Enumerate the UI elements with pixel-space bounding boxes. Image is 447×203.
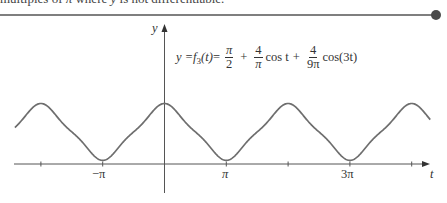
frac2-num: 4 — [254, 44, 262, 58]
y-axis-arrow-icon — [162, 24, 168, 32]
plus-2: + — [293, 50, 300, 65]
x-axis-arrow-icon — [422, 161, 430, 167]
term-cos-t: cos t — [266, 50, 289, 65]
tick-label-3pi: 3π — [341, 167, 354, 182]
frac2-den: π — [255, 58, 261, 71]
tick-label-pi: π — [222, 167, 228, 182]
fraction-4-over-9pi: 49π — [307, 44, 320, 71]
frac1-num: π — [225, 44, 233, 58]
tick-label-neg-pi: −π — [92, 167, 105, 182]
frac3-den: 9π — [307, 58, 320, 71]
fraction-pi-over-2: π2 — [225, 44, 233, 71]
fraction-4-over-pi: 4π — [254, 44, 262, 71]
formula-arg: (t) — [201, 50, 213, 65]
formula-lhs: y = — [176, 50, 193, 65]
section-rule-dot — [431, 10, 441, 20]
formula-subscript: 3 — [197, 56, 202, 66]
term-cos-3t: cos(3t) — [322, 50, 357, 65]
function-formula: y = f3(t) = π2 + 4π cos t + 49π cos(3t) — [176, 44, 357, 71]
y-axis-label: y — [152, 21, 158, 36]
x-axis-label: t — [430, 167, 433, 182]
plus-1: + — [240, 50, 247, 65]
formula-equals: = — [213, 50, 220, 65]
frac1-den: 2 — [226, 58, 232, 71]
function-curve — [15, 103, 430, 160]
frac3-num: 4 — [309, 44, 317, 58]
